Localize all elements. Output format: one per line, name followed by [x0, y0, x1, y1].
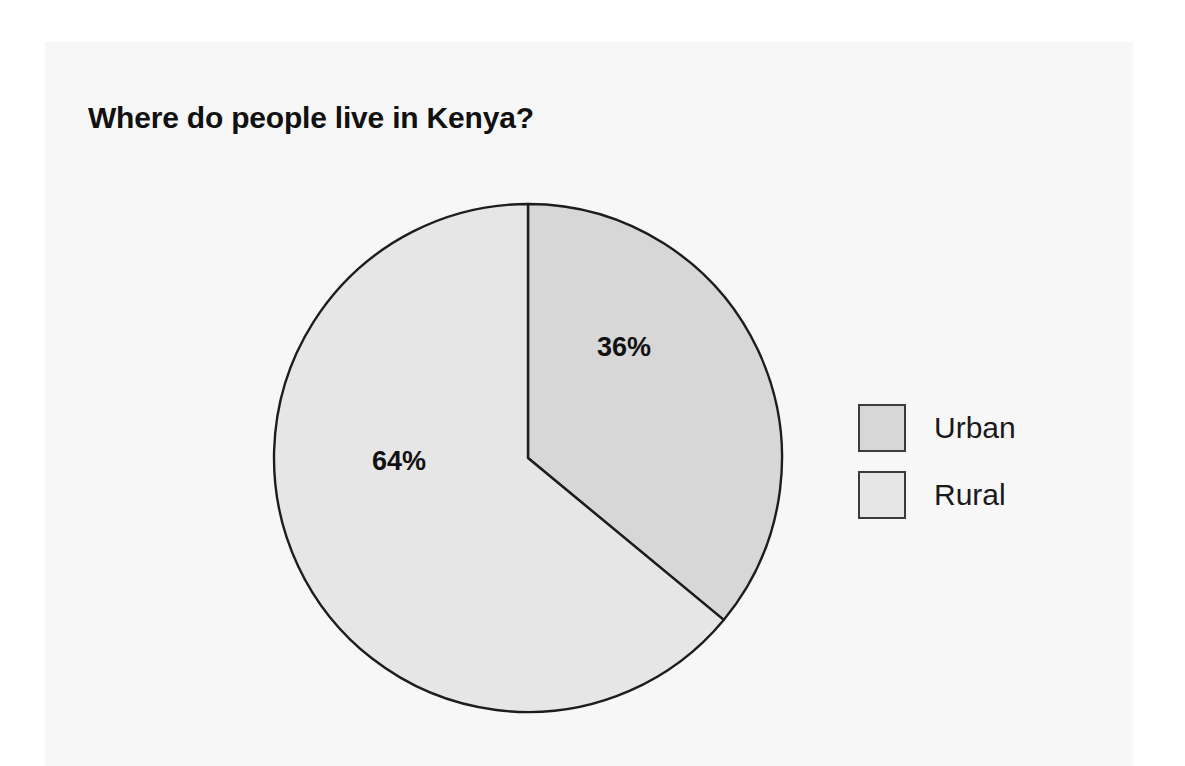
page-title: Where do people live in Kenya? [88, 101, 534, 135]
legend-item-urban[interactable]: Urban [858, 404, 1016, 452]
legend-swatch-rural [858, 471, 906, 519]
pie-slice-label-urban: 36% [597, 332, 651, 363]
legend-label-urban: Urban [934, 413, 1016, 443]
legend-label-rural: Rural [934, 480, 1006, 510]
pie-slice-label-rural: 64% [372, 446, 426, 477]
chart-legend: Urban Rural [858, 404, 1016, 519]
legend-item-rural[interactable]: Rural [858, 471, 1016, 519]
pie-chart [268, 198, 788, 718]
legend-swatch-urban [858, 404, 906, 452]
pie-chart-svg [268, 198, 788, 718]
chart-page: Where do people live in Kenya? 36% 64% U… [0, 0, 1185, 766]
